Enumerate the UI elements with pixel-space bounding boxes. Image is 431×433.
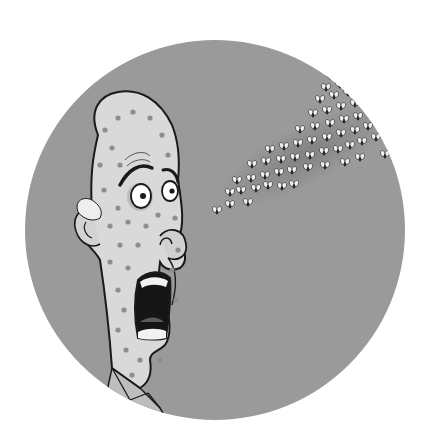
illustration bbox=[0, 0, 431, 433]
teeth-bottom bbox=[138, 329, 166, 340]
